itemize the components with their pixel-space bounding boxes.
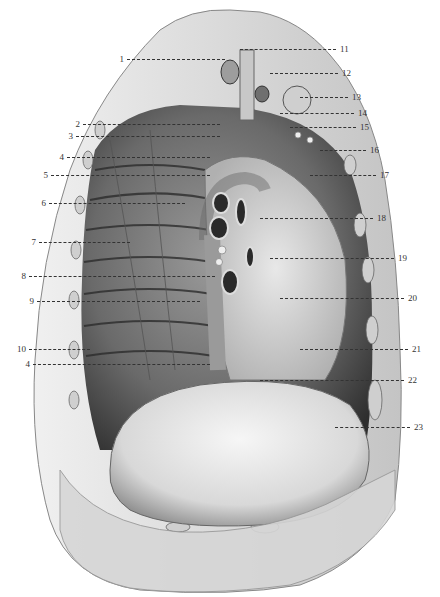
leader-line [39, 242, 130, 243]
descending-aorta [212, 235, 218, 370]
label-number: 5 [24, 170, 48, 180]
label-number: 22 [408, 375, 417, 385]
label-number: 18 [377, 213, 386, 223]
leader-line [67, 157, 210, 158]
leader-line [270, 73, 338, 74]
label-number: 14 [358, 108, 367, 118]
leader-line [83, 124, 220, 125]
leader-line [300, 97, 348, 98]
leader-line [127, 59, 225, 60]
leader-line [29, 349, 90, 350]
leader-line [260, 218, 373, 219]
label-number: 6 [22, 198, 46, 208]
leader-line [280, 113, 354, 114]
label-number: 19 [398, 253, 407, 263]
label-number: 3 [49, 131, 73, 141]
leader-line [290, 127, 356, 128]
label-number: 21 [412, 344, 421, 354]
leader-line [37, 301, 200, 302]
label-number: 1 [100, 54, 124, 64]
leader-line [49, 203, 185, 204]
leader-line [335, 427, 410, 428]
leader-line [29, 276, 215, 277]
label-number: 7 [12, 237, 36, 247]
leader-line [76, 136, 220, 137]
leader-line [33, 364, 210, 365]
label-number: 11 [340, 44, 349, 54]
label-number: 15 [360, 122, 369, 132]
label-number: 4 [6, 359, 30, 369]
leader-line [51, 175, 210, 176]
leader-line [280, 298, 404, 299]
leader-line [310, 175, 376, 176]
label-number: 17 [380, 170, 389, 180]
leader-line [320, 150, 366, 151]
label-number: 10 [2, 344, 26, 354]
label-number: 20 [408, 293, 417, 303]
leader-line [240, 49, 336, 50]
leader-line [300, 349, 408, 350]
label-number: 16 [370, 145, 379, 155]
label-number: 2 [56, 119, 80, 129]
leader-line [260, 380, 404, 381]
label-number: 4 [40, 152, 64, 162]
label-number: 23 [414, 422, 423, 432]
leader-line [270, 258, 394, 259]
label-number: 13 [352, 92, 361, 102]
label-number: 12 [342, 68, 351, 78]
label-number: 9 [10, 296, 34, 306]
label-number: 8 [2, 271, 26, 281]
